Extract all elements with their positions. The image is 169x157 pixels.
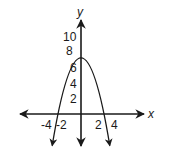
x-axis-label: x bbox=[147, 107, 155, 121]
parabola-graph: x y 10 8 6 4 2 -4 -2 2 4 bbox=[0, 0, 169, 157]
x-tick-label: 2 bbox=[95, 118, 102, 132]
y-tick-label: 8 bbox=[66, 44, 73, 58]
x-tick-label: 4 bbox=[111, 118, 118, 132]
y-axis-label: y bbox=[76, 5, 84, 19]
x-tick-label: -4 bbox=[41, 118, 52, 132]
y-tick-label: 2 bbox=[70, 92, 77, 106]
y-tick-label: 4 bbox=[70, 77, 77, 91]
y-tick-label: 10 bbox=[63, 30, 77, 44]
x-tick-label: -2 bbox=[56, 118, 67, 132]
